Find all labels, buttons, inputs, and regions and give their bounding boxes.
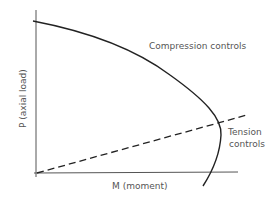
x-axis-label: M (moment): [112, 181, 167, 191]
tension-controls-label-1: Tension: [228, 127, 262, 137]
balanced-line: [37, 115, 247, 173]
x-axis: [34, 172, 238, 173]
y-axis-label: P (axial load): [18, 69, 28, 128]
compression-controls-label: Compression controls: [149, 41, 246, 51]
interaction-diagram: [0, 0, 279, 200]
tension-controls-label-2: controls: [229, 139, 265, 149]
